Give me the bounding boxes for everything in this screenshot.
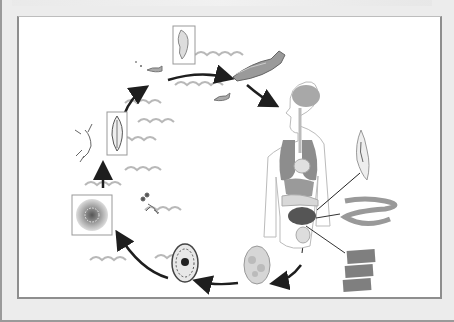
egg-icon xyxy=(172,244,198,282)
coracidium-icon xyxy=(72,195,112,235)
human-body-icon xyxy=(264,82,330,248)
larva-icon xyxy=(173,26,195,64)
life-cycle-diagram xyxy=(0,0,454,322)
embryonated-egg-icon xyxy=(244,246,270,284)
procercoid-icon xyxy=(107,112,127,155)
fish-icon xyxy=(233,51,285,81)
proglottid-icon xyxy=(306,226,375,292)
small-fish-icon xyxy=(135,61,230,101)
